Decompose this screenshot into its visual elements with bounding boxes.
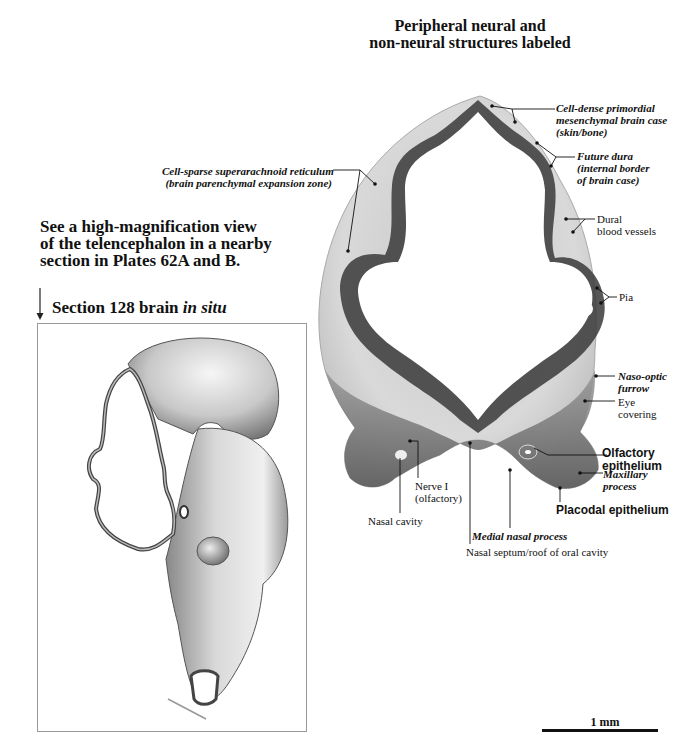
label-maxillary-process: Maxillary process xyxy=(603,468,648,492)
brain-3d-reconstruction xyxy=(38,324,306,731)
label-line: Cell-dense primordial xyxy=(556,102,667,114)
note-line-1: See a high-magnification view xyxy=(40,218,272,235)
note-line-3: section in Plates 62A and B. xyxy=(40,252,272,269)
label-line: Naso-optic xyxy=(618,370,667,382)
label-cell-sparse-reticulum: Cell-sparse superarachnoid reticulum (br… xyxy=(162,165,332,189)
label-line: Dural xyxy=(597,213,656,225)
note-line-2: of the telencephalon in a nearby xyxy=(40,235,272,252)
inset-title-italic: in situ xyxy=(183,298,227,317)
figure-title-line-1: Peripheral neural and xyxy=(330,17,610,34)
label-line: mesenchymal brain case xyxy=(556,114,667,126)
label-line: Maxillary xyxy=(603,468,648,480)
label-nasal-cavity: Nasal cavity xyxy=(368,515,423,527)
label-placodal-epithelium: Placodal epithelium xyxy=(556,504,669,517)
scale-bar-label: 1 mm xyxy=(555,715,655,730)
inset-title: Section 128 brain in situ xyxy=(52,298,227,318)
label-eye-covering: Eye covering xyxy=(618,396,656,420)
label-line: Nerve I xyxy=(415,480,462,492)
brain-in-situ-panel xyxy=(37,323,307,732)
label-line: Cell-sparse superarachnoid reticulum xyxy=(162,165,332,177)
label-line: (olfactory) xyxy=(415,492,462,504)
label-line: Future dura xyxy=(577,150,649,162)
scale-bar xyxy=(542,729,658,732)
label-line: (skin/bone) xyxy=(556,126,667,138)
label-nerve-i: Nerve I (olfactory) xyxy=(415,480,462,504)
label-line: Eye xyxy=(618,396,656,408)
label-naso-optic-furrow: Naso-optic furrow xyxy=(618,370,667,394)
label-line: furrow xyxy=(618,382,667,394)
label-line: (brain parenchymal expansion zone) xyxy=(162,177,332,189)
label-line: covering xyxy=(618,408,656,420)
cross-reference-note: See a high-magnification view of the tel… xyxy=(40,218,272,269)
label-dural-blood-vessels: Dural blood vessels xyxy=(597,213,656,237)
label-future-dura: Future dura (internal border of brain ca… xyxy=(577,150,649,186)
label-line: process xyxy=(603,480,648,492)
inset-title-text: Section 128 brain xyxy=(52,298,183,317)
label-nasal-septum: Nasal septum/roof of oral cavity xyxy=(466,546,608,558)
label-pia: Pia xyxy=(619,291,633,303)
figure-title: Peripheral neural and non-neural structu… xyxy=(330,17,610,51)
figure-title-line-2: non-neural structures labeled xyxy=(330,34,610,51)
label-line: (internal border xyxy=(577,162,649,174)
label-medial-nasal-process: Medial nasal process xyxy=(472,530,567,542)
label-line: of brain case) xyxy=(577,174,649,186)
label-cell-dense-brain-case: Cell-dense primordial mesenchymal brain … xyxy=(556,102,667,138)
label-line: blood vessels xyxy=(597,225,656,237)
